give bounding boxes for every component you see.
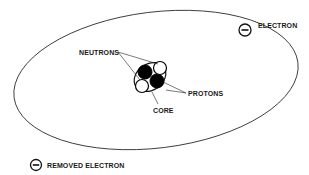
core-label: CORE [153,107,174,114]
neutrons-label: NEUTRONS [79,49,119,56]
removed-electron-label: REMOVED ELECTRON [47,162,124,169]
atom-diagram: NEUTRONS PROTONS CORE ELECTRON REMOVED E… [0,0,309,175]
electron-label: ELECTRON [258,22,297,29]
core-pointer [152,92,158,104]
removed-electron [31,160,42,171]
protons-label: PROTONS [188,90,223,97]
electron [239,24,251,36]
proton-2 [150,74,164,88]
protons-pointers [163,82,186,93]
neutron-2 [136,80,149,93]
proton-1 [138,65,152,79]
